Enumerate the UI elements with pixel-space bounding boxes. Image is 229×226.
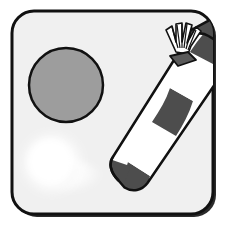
gray-circle bbox=[29, 48, 103, 122]
illustration-stage: A rounded square frame containing a gray… bbox=[0, 0, 229, 226]
glow-hotspot bbox=[29, 140, 71, 182]
illustration-canvas bbox=[0, 0, 229, 226]
